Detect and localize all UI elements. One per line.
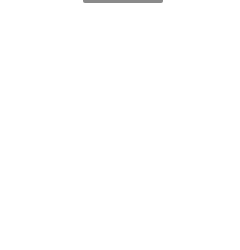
- go-board: [0, 0, 240, 240]
- diagram-caption: [0, 240, 240, 250]
